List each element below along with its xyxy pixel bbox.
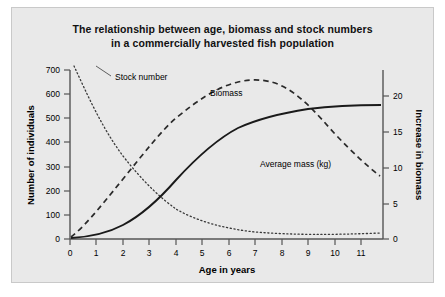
- right-axis-tick-labels: 20 15 10 5 0: [393, 91, 403, 244]
- x-tick-label: 5: [200, 248, 205, 258]
- stock-number-leader-line: [96, 66, 111, 76]
- x-tick-label: 0: [68, 248, 73, 258]
- series-label-stock-number: Stock number: [115, 72, 168, 82]
- x-axis-tick-labels: 0 1 2 3 4 5 6 7 8 9 10 11: [68, 248, 366, 258]
- x-tick-label: 2: [121, 248, 126, 258]
- x-tick-label: 10: [330, 248, 340, 258]
- x-axis-ticks: [70, 239, 361, 245]
- x-axis-title: Age in years: [199, 264, 256, 275]
- series-label-average-mass: Average mass (kg): [260, 159, 331, 169]
- chart-figure: The relationship between age, biomass an…: [11, 7, 434, 283]
- y-tick-label: 700: [46, 65, 60, 75]
- y-axis-title: Number of individuals: [25, 105, 36, 205]
- series-line-biomass: [71, 80, 380, 237]
- right-axis-ticks: [383, 96, 389, 239]
- x-tick-label: 8: [280, 248, 285, 258]
- y-tick-label: 0: [55, 234, 60, 244]
- chart-plot-area: 700 600 500 400 300 200 100 0 20 15 10 5…: [12, 8, 435, 284]
- series-label-biomass: Biomass: [210, 88, 243, 98]
- x-tick-label: 1: [94, 248, 99, 258]
- x-tick-label: 7: [253, 248, 258, 258]
- y-tick-label: 600: [46, 89, 60, 99]
- x-tick-label: 9: [306, 248, 311, 258]
- x-tick-label: 11: [357, 248, 366, 258]
- series-line-average-mass: [71, 105, 381, 238]
- y2-tick-label: 5: [393, 199, 398, 209]
- y2-tick-label: 20: [393, 91, 403, 101]
- y-tick-label: 200: [46, 186, 60, 196]
- x-tick-label: 6: [227, 248, 232, 258]
- y2-tick-label: 10: [393, 163, 403, 173]
- left-axis-ticks: [64, 70, 70, 239]
- y2-axis-title: Increase in biomass: [414, 110, 425, 201]
- y2-tick-label: 0: [393, 234, 398, 244]
- y2-tick-label: 15: [393, 127, 403, 137]
- y-tick-label: 400: [46, 137, 60, 147]
- y-tick-label: 300: [46, 162, 60, 172]
- y-tick-label: 100: [46, 210, 60, 220]
- left-axis-tick-labels: 700 600 500 400 300 200 100 0: [46, 65, 60, 244]
- x-tick-label: 4: [174, 248, 179, 258]
- y-tick-label: 500: [46, 113, 60, 123]
- x-tick-label: 3: [147, 248, 152, 258]
